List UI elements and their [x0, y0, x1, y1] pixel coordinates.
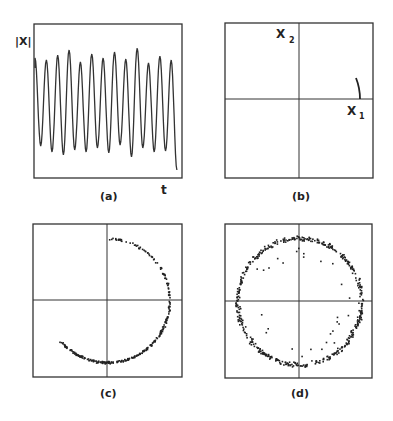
- panel-c: [33, 224, 182, 377]
- figure: |X| t (a) X 2 X 1 (b) (c) (d): [0, 0, 393, 421]
- panel-b-xlabel: X: [347, 104, 357, 118]
- panel-b-caption: (b): [292, 190, 310, 203]
- panel-d-points: [235, 235, 364, 367]
- panel-a-xlabel: t: [161, 183, 167, 197]
- panel-a-frame: [34, 24, 182, 178]
- panel-b-ylabel-sub: 2: [289, 36, 295, 45]
- panel-a-waveform: [35, 48, 177, 170]
- panel-c-caption: (c): [100, 387, 117, 400]
- panel-a-caption: (a): [100, 190, 117, 203]
- panel-b: [225, 23, 373, 178]
- panel-b-arc: [356, 78, 360, 99]
- panel-a-ylabel: |X|: [15, 35, 32, 48]
- panel-c-points: [59, 238, 171, 365]
- panel-b-xlabel-sub: 1: [359, 112, 365, 121]
- panel-b-ylabel: X: [276, 27, 286, 41]
- panel-d: [225, 224, 372, 378]
- panel-d-caption: (d): [291, 387, 309, 400]
- panel-a: [34, 24, 182, 178]
